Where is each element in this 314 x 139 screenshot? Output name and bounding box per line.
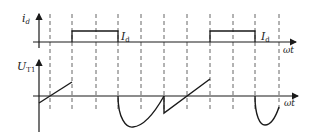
id-pulse-1 — [72, 31, 118, 42]
ut1-y-label: UT1 — [17, 60, 35, 74]
id-y-label: id — [22, 12, 31, 26]
ut1-dip-2 — [255, 96, 279, 125]
ut1-ramp-1 — [39, 82, 72, 103]
id-pulse-2 — [210, 31, 255, 42]
id-x-label: ωt — [283, 45, 294, 55]
pulse-label-2: Id — [260, 30, 270, 44]
pulse-label-1: Id — [120, 30, 130, 44]
waveform-diagram: id Id Id ωt UT1 ωt — [0, 0, 314, 139]
ut1-x-label: ωt — [284, 98, 295, 108]
ut1-plot — [33, 60, 298, 132]
